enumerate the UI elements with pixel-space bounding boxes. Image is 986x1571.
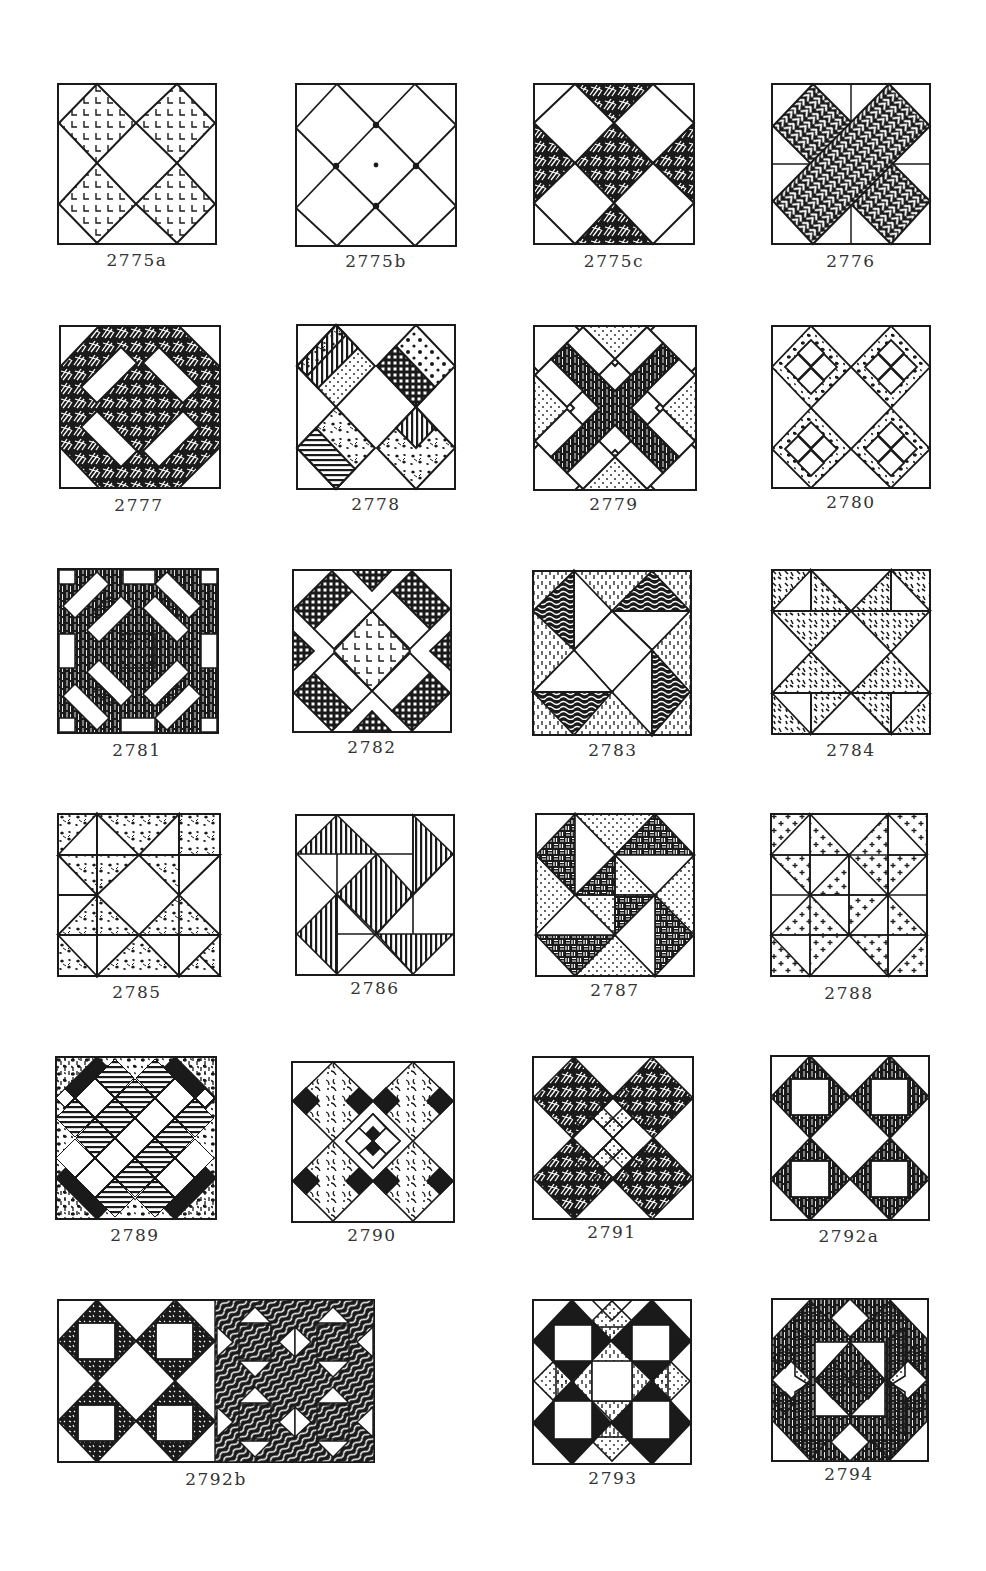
block-drawing: [291, 1061, 455, 1223]
quilt-block-2782: [292, 569, 452, 733]
block-drawing: [59, 325, 221, 489]
quilt-block-2785: [57, 813, 221, 977]
block-label: 2793: [533, 1468, 693, 1488]
block-label: 2776: [771, 251, 931, 271]
block-label: 2791: [532, 1222, 692, 1242]
block-drawing: [771, 83, 931, 245]
block-label: 2792b: [136, 1469, 296, 1489]
quilt-block-2777: [59, 325, 221, 489]
block-drawing: [770, 813, 928, 977]
block-label: 2783: [533, 740, 693, 760]
block-label: 2786: [295, 978, 455, 998]
quilt-block-2791: [532, 1056, 694, 1220]
quilt-block-2775c: [533, 83, 695, 245]
block-label: 2790: [292, 1225, 452, 1245]
quilt-block-2788: [770, 813, 928, 977]
block-label: 2782: [292, 737, 452, 757]
block-label: 2781: [57, 740, 217, 760]
block-drawing: [57, 1299, 375, 1463]
block-label: 2780: [771, 492, 931, 512]
block-drawing: [771, 1298, 929, 1462]
block-label: 2792a: [769, 1226, 929, 1246]
quilt-block-2789: [55, 1056, 217, 1220]
block-label: 2775b: [296, 251, 456, 271]
block-label: 2775c: [534, 251, 694, 271]
quilt-block-2775b: [295, 83, 457, 247]
block-label: 2788: [769, 983, 929, 1003]
quilt-block-2792a: [770, 1055, 930, 1221]
block-drawing: [532, 1299, 692, 1465]
block-drawing: [532, 1056, 694, 1220]
quilt-block-2781: [57, 568, 219, 734]
block-label: 2778: [296, 494, 456, 514]
quilt-block-2786: [295, 814, 455, 976]
quilt-block-2775a: [57, 83, 217, 245]
block-drawing: [296, 324, 456, 490]
quilt-block-2794: [771, 1298, 929, 1462]
block-drawing: [533, 325, 697, 491]
quilt-block-2793: [532, 1299, 692, 1465]
block-label: 2789: [55, 1225, 215, 1245]
block-label: 2775a: [57, 250, 217, 270]
block-drawing: [771, 325, 931, 489]
block-drawing: [57, 813, 221, 977]
block-drawing: [292, 569, 452, 733]
block-drawing: [770, 1055, 930, 1221]
quilt-block-2780: [771, 325, 931, 489]
block-drawing: [533, 83, 695, 245]
block-drawing: [532, 570, 692, 736]
quilt-block-2783: [532, 570, 692, 736]
quilt-block-2787: [535, 813, 695, 977]
quilt-block-2790: [291, 1061, 455, 1223]
block-label: 2785: [57, 982, 217, 1002]
quilt-block-2792b: [57, 1299, 375, 1463]
block-drawing: [57, 568, 219, 734]
block-label: 2777: [59, 495, 219, 515]
quilt-block-2779: [533, 325, 697, 491]
quilt-block-2778: [296, 324, 456, 490]
quilt-block-2784: [771, 569, 931, 735]
block-drawing: [55, 1056, 217, 1220]
block-label: 2787: [535, 980, 695, 1000]
block-drawing: [57, 83, 217, 245]
block-drawing: [295, 814, 455, 976]
block-drawing: [295, 83, 457, 247]
block-label: 2779: [534, 494, 694, 514]
block-label: 2784: [771, 740, 931, 760]
block-drawing: [535, 813, 695, 977]
block-label: 2794: [769, 1464, 929, 1484]
block-drawing: [771, 569, 931, 735]
quilt-block-2776: [771, 83, 931, 245]
